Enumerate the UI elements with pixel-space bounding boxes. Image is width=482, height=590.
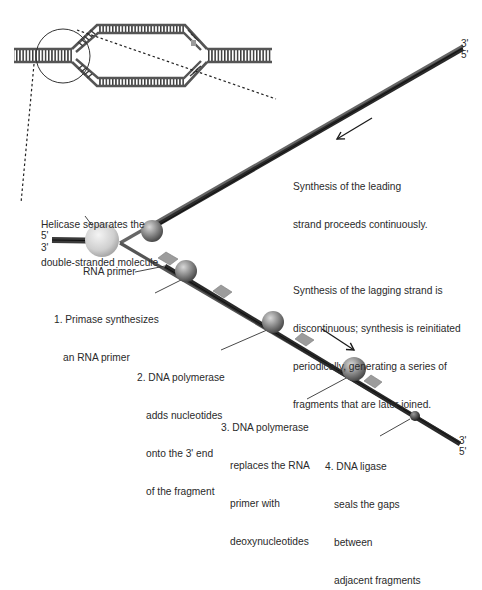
polymerase-add-line: onto the 3' end <box>137 448 225 461</box>
zoom-guide-right <box>77 30 276 99</box>
polymerase-add-line: 2. DNA polymerase <box>137 372 225 385</box>
ligase-label-line: between <box>325 537 421 550</box>
primase-icon <box>175 260 197 282</box>
right-duplex <box>207 49 272 62</box>
lagging-note-line: fragments that are later joined. <box>293 399 461 412</box>
leading-direction-arrow <box>337 118 372 139</box>
leading-note-line: Synthesis of the leading <box>293 181 428 194</box>
zoom-guide-left <box>21 64 34 203</box>
lagging-end-bottom: 5' <box>459 446 466 457</box>
rna-primer-label: RNA primer <box>83 266 136 279</box>
helicase-label: Helicase separates the double-stranded m… <box>41 194 158 295</box>
lagging-note-line: periodically, generating a series of <box>293 361 461 374</box>
lagging-strand-note: Synthesis of the lagging strand is disco… <box>293 260 461 436</box>
leading-strand-note: Synthesis of the leading strand proceeds… <box>293 156 428 257</box>
ligase-label-line: 4. DNA ligase <box>325 461 421 474</box>
ligase-label-line: adjacent fragments <box>325 575 421 588</box>
polymerase-replace-label: 3. DNA polymerase replaces the RNA prime… <box>221 397 310 573</box>
polymerase-replace-line: replaces the RNA <box>221 460 310 473</box>
leading-end-top: 3' <box>461 38 468 49</box>
lagging-polymerase-icon <box>262 311 284 333</box>
lagging-note-line: discontinuous; synthesis is reinitiated <box>293 323 461 336</box>
polymerase-add-line: of the fragment <box>137 486 225 499</box>
primase-label-line: 1. Primase synthesizes <box>54 314 159 327</box>
left-duplex <box>14 49 72 62</box>
bubble-bottom-arm <box>72 59 207 86</box>
polymerase-add-line: adds nucleotides <box>137 410 225 423</box>
leading-note-line: strand proceeds continuously. <box>293 219 428 232</box>
ligase-label-line: seals the gaps <box>325 499 421 512</box>
polymerase-replace-line: primer with <box>221 498 310 511</box>
helicase-label-line: Helicase separates the <box>41 219 158 232</box>
rna-primer <box>158 252 178 265</box>
ligase-label: 4. DNA ligase seals the gaps between adj… <box>325 436 421 590</box>
lagging-end-top: 3' <box>459 435 466 446</box>
polymerase-add-label: 2. DNA polymerase adds nucleotides onto … <box>137 347 225 523</box>
polymerase-replace-line: 3. DNA polymerase <box>221 422 310 435</box>
leading-end-bottom: 5' <box>461 49 468 60</box>
bubble-top-arm <box>72 25 207 52</box>
polymerase-replace-line: deoxynucleotides <box>221 536 310 549</box>
lagging-note-line: Synthesis of the lagging strand is <box>293 285 461 298</box>
